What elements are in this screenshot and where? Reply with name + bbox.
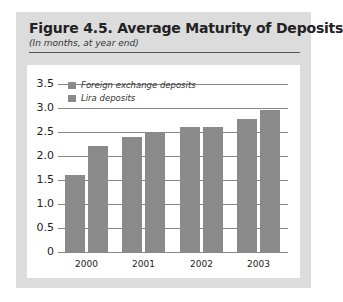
- x-tick-label: 2000: [62, 259, 112, 269]
- gridline: [58, 252, 288, 253]
- y-tick-label: 0: [20, 245, 54, 258]
- bar-2003-fx: [237, 119, 257, 252]
- y-tick-label: 1.5: [20, 173, 54, 186]
- gridline: [58, 108, 288, 109]
- y-tick-label: 1.0: [20, 197, 54, 210]
- bar-2000-fx: [65, 175, 85, 252]
- bar-2002-lira: [203, 127, 223, 252]
- legend-item-lira: Lira deposits: [68, 93, 135, 103]
- legend-swatch-icon: [68, 95, 76, 102]
- title-divider: [29, 52, 300, 53]
- y-tick-label: 0.5: [20, 221, 54, 234]
- bar-2002-fx: [180, 127, 200, 252]
- bar-2001-fx: [122, 137, 142, 252]
- figure-subtitle: (In months, at year end): [29, 38, 139, 48]
- bar-2003-lira: [260, 110, 280, 252]
- bar-2000-lira: [88, 146, 108, 252]
- x-tick-label: 2001: [119, 259, 169, 269]
- legend-item-fx: Foreign exchange deposits: [68, 80, 196, 90]
- y-tick-label: 2.5: [20, 125, 54, 138]
- y-tick-label: 2.0: [20, 149, 54, 162]
- legend-swatch-icon: [68, 82, 76, 89]
- x-tick-label: 2002: [177, 259, 227, 269]
- bar-2001-lira: [145, 132, 165, 252]
- figure-title: Figure 4.5. Average Maturity of Deposits: [29, 20, 343, 36]
- y-tick-label: 3.5: [20, 77, 54, 90]
- y-tick-label: 3.0: [20, 101, 54, 114]
- x-tick-label: 2003: [234, 259, 284, 269]
